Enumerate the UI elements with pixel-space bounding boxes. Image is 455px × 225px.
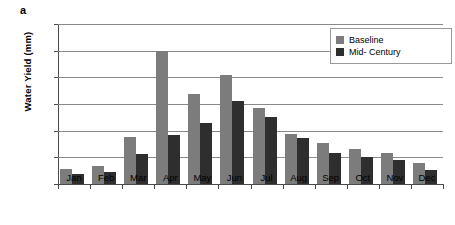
x-axis-tick (186, 184, 187, 189)
x-axis-tick (90, 184, 91, 189)
x-axis-tick (154, 184, 155, 189)
bar-group (218, 24, 250, 184)
bar-group (154, 24, 186, 184)
x-axis-tick (315, 184, 316, 189)
y-axis-title: Water Yield (mm) (22, 7, 33, 137)
legend-label: Baseline (349, 35, 384, 45)
bar-group (122, 24, 154, 184)
bar-group (58, 24, 90, 184)
bar-group (251, 24, 283, 184)
legend-label: Mid- Century (349, 47, 401, 57)
x-axis-tick (379, 184, 380, 189)
bar-group (186, 24, 218, 184)
bar-baseline-may (188, 94, 200, 184)
legend-item-baseline: Baseline (336, 35, 446, 45)
x-axis-tick (218, 184, 219, 189)
x-axis-tick (283, 184, 284, 189)
bar-baseline-apr (156, 51, 168, 184)
x-axis-tick (58, 184, 59, 189)
chart-figure: a Water Yield (mm) 0102030405060 JanFebM… (0, 0, 455, 225)
bar-baseline-jun (220, 75, 232, 184)
x-axis-tick (411, 184, 412, 189)
x-axis-tick (122, 184, 123, 189)
x-axis-tick (347, 184, 348, 189)
x-axis-tick-label-dec: Dec (407, 172, 447, 183)
legend-swatch-icon (336, 48, 344, 56)
legend-swatch-icon (336, 36, 344, 44)
x-axis-tick (443, 184, 444, 189)
x-axis-tick (251, 184, 252, 189)
bar-group (90, 24, 122, 184)
chart-legend: BaselineMid- Century (330, 28, 452, 64)
legend-item-mid-century: Mid- Century (336, 47, 446, 57)
bar-group (283, 24, 315, 184)
